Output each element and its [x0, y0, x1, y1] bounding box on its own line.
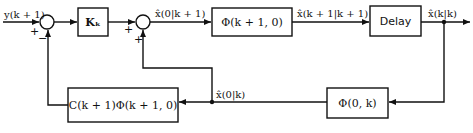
output-label: x̂(k|k) [428, 8, 457, 19]
x0k-branch-node [210, 100, 214, 104]
input-label: y(k + 1) [4, 9, 45, 20]
delay-block-label: Delay [370, 6, 421, 36]
signal-label-x0-k1: x̂(0|k + 1) [155, 8, 205, 19]
sum1-minus-sign: − [38, 33, 47, 44]
output-branch-node [442, 20, 446, 24]
phi-back-block-label: Φ(0, k) [327, 88, 388, 118]
phi-forward-block-label: Φ(k + 1, 0) [212, 8, 292, 36]
sum2-plus-sign-bottom: + [134, 34, 143, 45]
measurement-block-label: C(k + 1)Φ(k + 1, 0) [68, 88, 178, 122]
summing-junction-2 [136, 15, 150, 29]
sum2-plus-sign-left: + [124, 24, 133, 35]
signal-label-xk1-k1: x̂(k + 1|k + 1) [297, 8, 368, 19]
signal-label-x0-k: x̂(0|k) [216, 89, 245, 100]
gain-block-label: Kₖ [78, 8, 108, 36]
